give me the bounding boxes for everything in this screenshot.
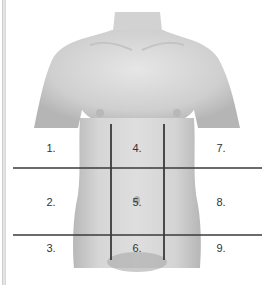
region-label-1: 1. <box>46 142 55 154</box>
chest <box>34 30 240 128</box>
region-label-6: 6. <box>132 242 141 254</box>
region-label-5: 5. <box>132 196 141 208</box>
region-label-2: 2. <box>46 196 55 208</box>
region-label-4: 4. <box>132 142 141 154</box>
region-label-9: 9. <box>216 242 225 254</box>
region-label-8: 8. <box>216 196 225 208</box>
region-label-7: 7. <box>216 142 225 154</box>
region-label-3: 3. <box>46 242 55 254</box>
